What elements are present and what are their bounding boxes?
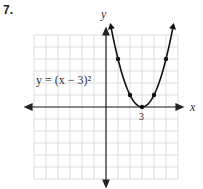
y-axis-arrow-up-icon [103, 28, 109, 35]
curve-arrows [108, 23, 176, 30]
data-point [128, 93, 132, 97]
tick-label-3: 3 [139, 111, 144, 122]
x-axis-label: x [189, 100, 196, 114]
data-point [152, 93, 156, 97]
data-point [140, 105, 144, 109]
x-axis-arrow-left-icon [25, 104, 32, 110]
axes [25, 28, 183, 187]
equation-label: y = (x − 3)² [36, 73, 92, 87]
y-axis-arrow-down-icon [103, 180, 109, 187]
data-point [164, 57, 168, 61]
x-axis-arrow-right-icon [176, 104, 183, 110]
y-axis-label: y [100, 7, 107, 21]
data-point [116, 57, 120, 61]
graph: x y 3 y = (x − 3)² [0, 0, 203, 189]
